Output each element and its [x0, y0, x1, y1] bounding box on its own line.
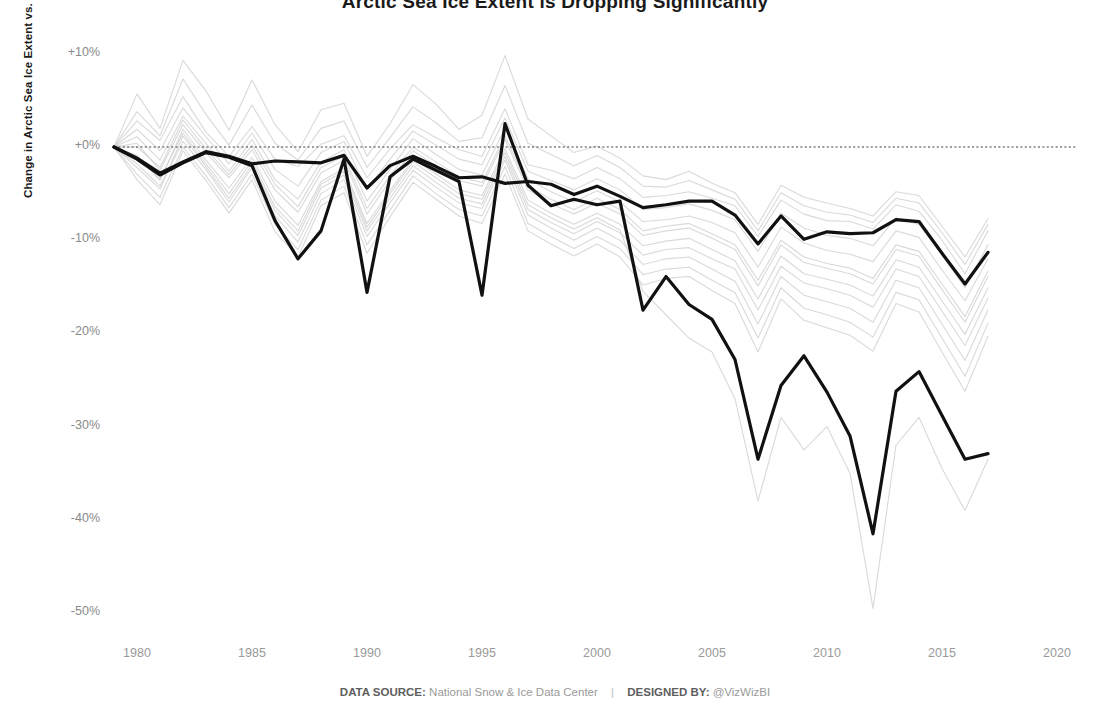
designed-by-value: @VizWizBI	[713, 686, 770, 698]
x-axis-tick-label: 2015	[902, 646, 982, 660]
arctic-sea-ice-chart: Arctic Sea Ice Extent is Dropping Signif…	[0, 0, 1110, 722]
designed-by-label: DESIGNED BY:	[627, 686, 709, 698]
plot-area	[0, 0, 1110, 722]
highlight-series-line	[114, 147, 988, 284]
data-source-value: National Snow & Ice Data Center	[429, 686, 598, 698]
x-axis-tick-label: 1995	[442, 646, 522, 660]
footer-credits: DATA SOURCE: National Snow & Ice Data Ce…	[0, 686, 1110, 698]
x-axis-tick-label: 2010	[787, 646, 867, 660]
context-series-line	[114, 147, 988, 376]
highlight-series-group	[114, 124, 988, 534]
x-axis-tick-label: 2005	[672, 646, 752, 660]
x-axis-tick-label: 2000	[557, 646, 637, 660]
context-series-line	[114, 116, 988, 301]
x-axis-tick-label: 1980	[97, 646, 177, 660]
footer-separator: |	[601, 686, 624, 698]
x-axis-tick-label: 1985	[212, 646, 292, 660]
context-series-line	[114, 56, 988, 257]
x-axis-tick-label: 1990	[327, 646, 407, 660]
x-axis-tick-label: 2020	[1017, 646, 1097, 660]
data-source-label: DATA SOURCE:	[340, 686, 426, 698]
context-series-group	[114, 56, 988, 609]
